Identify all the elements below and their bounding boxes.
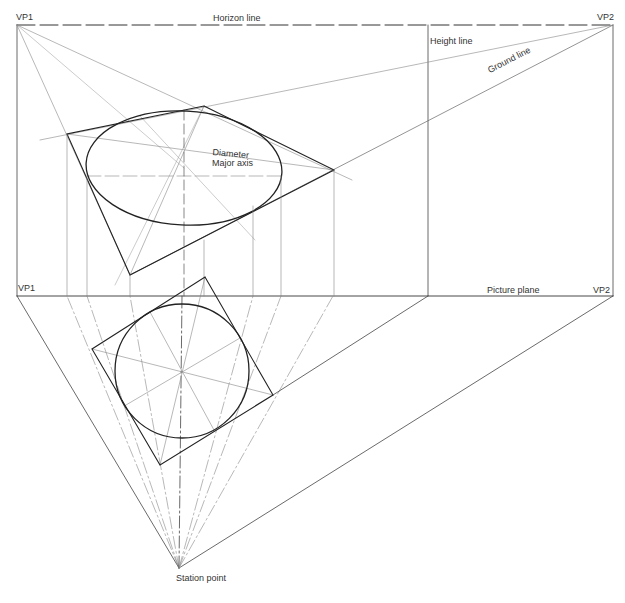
major-axis-label: Major axis: [212, 158, 253, 168]
sp-ray: [67, 296, 179, 568]
perspective-square: [67, 106, 334, 275]
persp-diagonal: [115, 106, 204, 285]
vp1-top-label: VP1: [16, 12, 33, 22]
sp-ray: [179, 296, 613, 568]
sp-ray: [179, 296, 253, 568]
sp-ray: [179, 296, 182, 568]
height-line-label: Height line: [430, 36, 473, 46]
sp-ray: [179, 296, 281, 568]
vp2-ray: [40, 25, 613, 140]
perspective-diagram: [0, 0, 625, 603]
persp-diagonal: [140, 116, 255, 240]
plan-diagonal: [126, 338, 240, 405]
sp-ray: [87, 296, 179, 568]
plan-diagonal: [150, 312, 214, 430]
persp-diagonal: [67, 134, 334, 170]
vp2-plan-label: VP2: [593, 285, 610, 295]
picture-plane-label: Picture plane: [487, 285, 540, 295]
vp1-plan-label: VP1: [18, 283, 35, 293]
station-point-label: Station point: [176, 573, 226, 583]
plan-extension: [273, 296, 428, 395]
horizon-line-label: Horizon line: [213, 13, 261, 23]
sp-ray: [179, 296, 333, 568]
vp2-top-label: VP2: [597, 12, 614, 22]
